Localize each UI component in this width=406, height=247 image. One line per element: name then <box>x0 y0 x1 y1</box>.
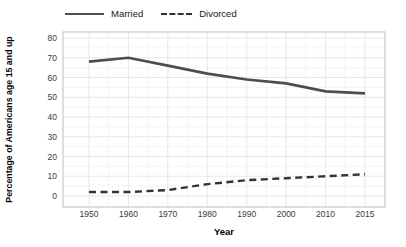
y-tick-label: 60 <box>48 73 58 83</box>
x-axis-title: Year <box>214 226 234 237</box>
y-tick-label: 20 <box>48 152 58 162</box>
x-tick-label: 2015 <box>356 209 375 219</box>
divorced-line-sample-icon <box>161 13 192 15</box>
y-tick-label: 50 <box>48 92 58 102</box>
y-tick-label: 10 <box>48 171 58 181</box>
x-tick-label: 1950 <box>80 209 99 219</box>
y-tick-label: 0 <box>52 191 57 201</box>
legend-item-married: Married <box>65 7 143 20</box>
y-axis-title: Percentage of Americans age 15 and up <box>4 36 14 203</box>
legend-label-married: Married <box>111 7 143 20</box>
x-tick-label: 2010 <box>316 209 335 219</box>
y-tick-label: 70 <box>48 53 58 63</box>
plot-area-container: 0102030405060708019501960197019801990200… <box>0 0 406 247</box>
legend-label-divorced: Divorced <box>199 7 237 20</box>
y-tick-label: 30 <box>48 132 58 142</box>
chart-svg: 0102030405060708019501960197019801990200… <box>0 0 406 247</box>
legend-item-divorced: Divorced <box>161 7 237 20</box>
x-tick-label: 1960 <box>119 209 138 219</box>
x-tick-label: 1970 <box>158 209 177 219</box>
x-tick-label: 1990 <box>237 209 256 219</box>
x-tick-label: 2000 <box>277 209 296 219</box>
x-tick-label: 1980 <box>198 209 217 219</box>
y-tick-label: 80 <box>48 33 58 43</box>
line-chart: Married Divorced 01020304050607080195019… <box>0 0 406 247</box>
married-line-sample-icon <box>65 13 104 15</box>
y-tick-label: 40 <box>48 112 58 122</box>
legend: Married Divorced <box>65 7 237 20</box>
